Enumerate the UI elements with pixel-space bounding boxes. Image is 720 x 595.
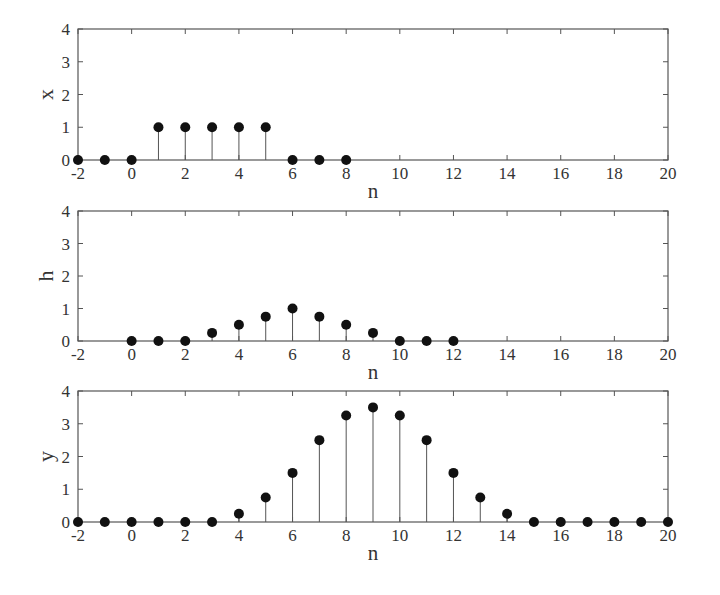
x-tick-label: 2 (181, 345, 190, 364)
stem-marker (314, 435, 324, 445)
x-tick-label: 14 (499, 345, 517, 364)
stem-marker (234, 320, 244, 330)
stem-marker (261, 122, 271, 132)
stem-marker (529, 517, 539, 527)
y-tick-label: 0 (62, 513, 71, 532)
y-axis-label: y (33, 451, 58, 462)
stem-marker (288, 155, 298, 165)
stem-marker (153, 122, 163, 132)
stem-marker (341, 411, 351, 421)
panel-x: -20246810121416182001234nx (33, 20, 676, 203)
y-tick-label: 1 (62, 300, 71, 319)
stem-marker (288, 304, 298, 314)
x-tick-label: -2 (71, 164, 85, 183)
x-axis-label: n (368, 541, 379, 565)
x-tick-label: -2 (71, 345, 85, 364)
x-tick-label: 10 (391, 526, 408, 545)
x-axis-label: n (368, 179, 379, 203)
stem-marker (314, 312, 324, 322)
y-tick-label: 1 (62, 118, 71, 137)
x-tick-label: 18 (606, 345, 623, 364)
stem-marker (448, 336, 458, 346)
stem-marker (502, 509, 512, 519)
stem-marker (422, 336, 432, 346)
y-tick-label: 4 (62, 382, 71, 401)
stem-marker (127, 155, 137, 165)
stem-marker (73, 155, 83, 165)
stem-marker (288, 468, 298, 478)
stem-marker (180, 517, 190, 527)
stem-marker (395, 411, 405, 421)
stem-marker (341, 320, 351, 330)
stem-marker (314, 155, 324, 165)
x-tick-label: 12 (445, 164, 462, 183)
x-tick-label: 0 (127, 526, 136, 545)
stem-marker (261, 312, 271, 322)
y-tick-label: 3 (62, 235, 71, 254)
stem-marker (583, 517, 593, 527)
x-tick-label: 8 (342, 164, 351, 183)
y-tick-label: 1 (62, 480, 71, 499)
plot-frame (78, 29, 668, 160)
stem-marker (609, 517, 619, 527)
x-axis-label: n (368, 360, 379, 384)
y-tick-label: 2 (62, 448, 71, 467)
stem-marker (475, 492, 485, 502)
y-tick-label: 2 (62, 267, 71, 286)
stem-marker (100, 517, 110, 527)
panel-y: -20246810121416182001234ny (33, 382, 676, 565)
x-tick-label: 16 (552, 164, 569, 183)
y-tick-label: 0 (62, 332, 71, 351)
x-tick-label: 0 (127, 345, 136, 364)
stem-marker (663, 517, 673, 527)
y-tick-label: 4 (62, 202, 71, 221)
stem-marker (207, 328, 217, 338)
stem-marker (207, 517, 217, 527)
x-tick-label: 4 (235, 345, 244, 364)
figure: -20246810121416182001234nx -202468101214… (0, 0, 720, 595)
x-tick-label: 4 (235, 164, 244, 183)
x-tick-label: 12 (445, 526, 462, 545)
y-axis-label: x (33, 89, 58, 100)
stem-marker (422, 435, 432, 445)
x-tick-label: 14 (499, 526, 517, 545)
x-tick-label: 6 (288, 164, 297, 183)
stem-marker (368, 402, 378, 412)
x-tick-label: 20 (660, 164, 677, 183)
stem-marker (234, 122, 244, 132)
stem-marker (127, 336, 137, 346)
x-tick-label: 10 (391, 164, 408, 183)
stem-marker (636, 517, 646, 527)
stem-marker (207, 122, 217, 132)
stem-marker (73, 517, 83, 527)
plot-frame (78, 211, 668, 341)
x-tick-label: 8 (342, 345, 351, 364)
x-tick-label: 16 (552, 526, 569, 545)
x-tick-label: 18 (606, 526, 623, 545)
y-tick-label: 0 (62, 151, 71, 170)
stem-marker (448, 468, 458, 478)
x-tick-label: 6 (288, 345, 297, 364)
stem-marker (153, 517, 163, 527)
x-tick-label: 0 (127, 164, 136, 183)
panel-h: -20246810121416182001234nh (33, 202, 676, 384)
x-tick-label: 6 (288, 526, 297, 545)
x-tick-label: 4 (235, 526, 244, 545)
stem-marker (180, 336, 190, 346)
x-tick-label: 16 (552, 345, 569, 364)
stem-marker (395, 336, 405, 346)
stem-marker (261, 492, 271, 502)
x-tick-label: 12 (445, 345, 462, 364)
x-tick-label: 2 (181, 164, 190, 183)
stem-marker (100, 155, 110, 165)
x-tick-label: 8 (342, 526, 351, 545)
y-tick-label: 4 (62, 20, 71, 39)
y-axis-label: h (33, 271, 58, 282)
x-tick-label: -2 (71, 526, 85, 545)
y-tick-label: 2 (62, 86, 71, 105)
stem-marker (180, 122, 190, 132)
x-tick-label: 10 (391, 345, 408, 364)
y-tick-label: 3 (62, 415, 71, 434)
stem-marker (368, 328, 378, 338)
x-tick-label: 20 (660, 526, 677, 545)
